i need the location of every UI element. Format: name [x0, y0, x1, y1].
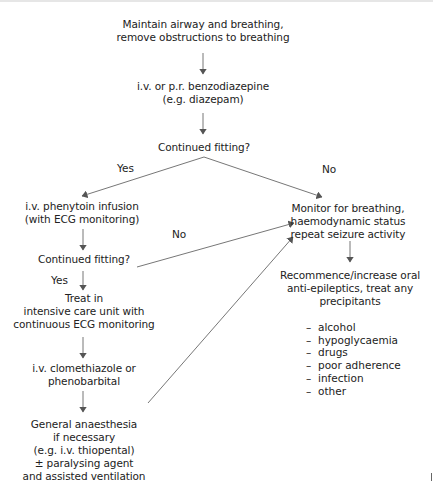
node-intensive-care: Treat in intensive care unit with contin…	[13, 292, 154, 331]
arrow-decision2-no	[137, 223, 294, 267]
node-monitor: Monitor for breathing, haemodynamic stat…	[291, 202, 406, 241]
edge-label-yes-1: Yes	[117, 162, 134, 175]
precipitant-item: –poor adherence	[306, 359, 401, 372]
precipitant-item: –drugs	[306, 346, 401, 359]
precipitant-item: –alcohol	[306, 321, 401, 334]
precipitants-list: –alcohol –hypoglycaemia –drugs –poor adh…	[306, 321, 401, 397]
node-recommence-antiepileptics: Recommence/increase oral anti-epileptics…	[280, 269, 420, 308]
node-maintain-airway: Maintain airway and breathing, remove ob…	[117, 18, 290, 44]
node-general-anaesthesia: General anaesthesia if necessary (e.g. i…	[23, 418, 146, 483]
arrow-decision1-no	[204, 157, 322, 197]
node-phenytoin-infusion: i.v. phenytoin infusion (with ECG monito…	[25, 200, 139, 226]
edge-label-no-2: No	[172, 228, 186, 241]
page-edge-mark	[431, 473, 432, 481]
edge-label-yes-2: Yes	[51, 274, 68, 287]
node-decision-continued-fitting-2: Continued fitting?	[38, 253, 130, 266]
node-benzodiazepine: i.v. or p.r. benzodiazepine (e.g. diazep…	[137, 80, 269, 106]
precipitant-item: –hypoglycaemia	[306, 334, 401, 347]
arrow-decision1-yes	[82, 157, 204, 196]
precipitant-item: –infection	[306, 372, 401, 385]
node-decision-continued-fitting-1: Continued fitting?	[158, 141, 250, 154]
node-clomethiazole: i.v. clomethiazole or phenobarbital	[32, 362, 136, 388]
edge-label-no-1: No	[322, 163, 336, 176]
arrow-anaesthesia-to-monitor	[148, 237, 293, 403]
precipitant-item: –other	[306, 385, 401, 398]
